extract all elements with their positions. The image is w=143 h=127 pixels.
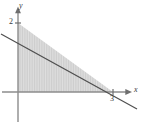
x-axis-arrowhead <box>125 89 132 95</box>
shaded-triangle-region <box>18 23 113 92</box>
x-axis-label: x <box>134 86 138 94</box>
graph-figure: y x 2 3 <box>0 0 143 127</box>
y-intercept-tick-label: 2 <box>9 18 13 26</box>
x-intercept-tick-label: 3 <box>110 95 114 103</box>
coordinate-plot <box>0 0 143 127</box>
y-axis-label: y <box>19 2 23 10</box>
